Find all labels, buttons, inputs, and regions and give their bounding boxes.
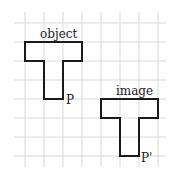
object-point-label: P [66, 93, 74, 107]
object-t-shape [25, 42, 82, 99]
image-point-label: P' [141, 151, 152, 165]
image-t-shape [101, 99, 158, 156]
translation-diagram: object P image P' [0, 0, 177, 176]
image-label: image [116, 84, 153, 98]
object-label: object [40, 27, 77, 41]
